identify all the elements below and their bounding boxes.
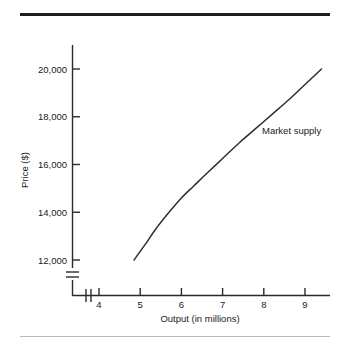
x-tick-label-8: 8 (261, 299, 266, 310)
supply-curve-chart: 20,000 18,000 16,000 14,000 12,000 Price… (0, 0, 349, 355)
y-axis-ticks (73, 69, 81, 260)
y-tick-label-20000: 20,000 (38, 64, 67, 75)
market-supply-curve (134, 69, 321, 260)
x-tick-label-4: 4 (96, 299, 101, 310)
figure-container: 20,000 18,000 16,000 14,000 12,000 Price… (0, 0, 349, 355)
x-axis-title: Output (in millions) (160, 313, 239, 324)
y-tick-label-14000: 14,000 (38, 207, 67, 218)
y-tick-label-12000: 12,000 (38, 255, 67, 266)
y-axis-title: Price ($) (19, 152, 30, 188)
x-tick-label-6: 6 (179, 299, 184, 310)
y-tick-label-18000: 18,000 (38, 111, 67, 122)
x-axis-group (73, 289, 331, 302)
x-tick-label-9: 9 (302, 299, 307, 310)
x-tick-label-7: 7 (220, 299, 225, 310)
x-tick-labels: 4 5 6 7 8 9 (96, 299, 307, 310)
market-supply-label: Market supply (262, 125, 321, 136)
x-axis-ticks (99, 288, 305, 296)
x-tick-label-5: 5 (138, 299, 143, 310)
y-axis-group (66, 45, 79, 296)
y-tick-label-16000: 16,000 (38, 159, 67, 170)
y-tick-labels: 20,000 18,000 16,000 14,000 12,000 (38, 64, 67, 266)
